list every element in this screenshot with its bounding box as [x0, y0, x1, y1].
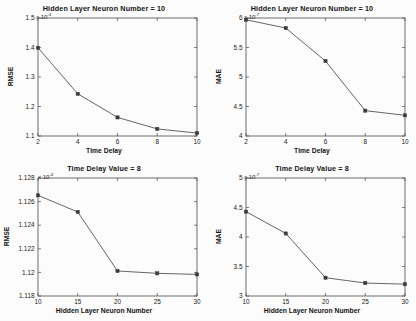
svg-text:15: 15 [282, 298, 290, 305]
plot-svg-top-left: 1.11.21.31.41.5246810 [0, 0, 208, 160]
svg-text:4: 4 [239, 233, 243, 240]
svg-text:1.1: 1.1 [26, 132, 35, 139]
svg-text:6: 6 [324, 138, 328, 145]
svg-text:8: 8 [155, 138, 159, 145]
svg-text:4.5: 4.5 [234, 103, 243, 110]
svg-text:1.4: 1.4 [26, 44, 35, 51]
svg-text:1.12: 1.12 [22, 269, 35, 276]
svg-text:8: 8 [363, 138, 367, 145]
svg-text:3.5: 3.5 [234, 263, 243, 270]
svg-text:4: 4 [284, 138, 288, 145]
svg-text:10: 10 [34, 298, 42, 305]
svg-text:4.5: 4.5 [234, 204, 243, 211]
svg-text:10: 10 [193, 138, 201, 145]
svg-text:5: 5 [239, 174, 243, 181]
svg-text:1.5: 1.5 [26, 14, 35, 21]
svg-text:5.5: 5.5 [234, 44, 243, 51]
chart-panel-bottom-left: Time Delay Value = 8 x 10-4 RMSE Hidden … [0, 160, 208, 320]
svg-text:5: 5 [239, 73, 243, 80]
svg-text:4: 4 [76, 138, 80, 145]
svg-text:1.118: 1.118 [19, 292, 35, 299]
svg-text:10: 10 [401, 138, 409, 145]
chart-panel-top-left: Hidden Layer Neuron Number = 10 x 10-4 R… [0, 0, 208, 160]
chart-panel-top-right: Hidden Layer Neuron Number = 10 x 10-7 M… [208, 0, 416, 160]
svg-text:6: 6 [239, 14, 243, 21]
svg-text:1.3: 1.3 [26, 73, 35, 80]
svg-text:1.124: 1.124 [19, 221, 35, 228]
svg-text:1.122: 1.122 [19, 245, 35, 252]
plot-svg-bottom-left: 1.1181.121.1221.1241.1261.1281015202530 [0, 160, 208, 320]
svg-text:2: 2 [36, 138, 40, 145]
svg-text:20: 20 [322, 298, 330, 305]
svg-text:25: 25 [362, 298, 370, 305]
plot-svg-top-right: 44.555.56246810 [208, 0, 416, 160]
svg-text:1.128: 1.128 [19, 174, 35, 181]
svg-text:30: 30 [401, 298, 409, 305]
svg-text:2: 2 [244, 138, 248, 145]
svg-text:25: 25 [154, 298, 162, 305]
svg-text:6: 6 [116, 138, 120, 145]
chart-panel-bottom-right: Time Delay Value = 8 x 10-7 MAE Hidden L… [208, 160, 416, 320]
svg-text:30: 30 [193, 298, 201, 305]
svg-text:20: 20 [114, 298, 122, 305]
svg-text:1.126: 1.126 [19, 198, 35, 205]
figure-canvas: Hidden Layer Neuron Number = 10 x 10-4 R… [0, 0, 416, 321]
svg-text:10: 10 [242, 298, 250, 305]
svg-text:1.2: 1.2 [26, 103, 35, 110]
plot-svg-bottom-right: 33.544.551015202530 [208, 160, 416, 320]
svg-text:4: 4 [239, 132, 243, 139]
svg-text:15: 15 [74, 298, 82, 305]
